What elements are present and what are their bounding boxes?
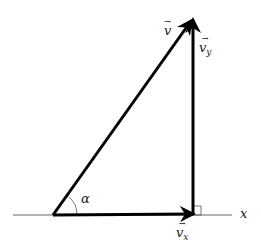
label-vy: →vy [199,41,211,57]
label-vx: →vx [176,226,188,242]
label-alpha: α [81,192,90,205]
vector-vx [53,214,193,215]
vector-diagram [0,0,261,250]
label-x-axis: x [240,207,247,220]
label-v: →v [164,24,171,37]
vector-v [53,21,191,215]
angle-arc [69,197,78,216]
